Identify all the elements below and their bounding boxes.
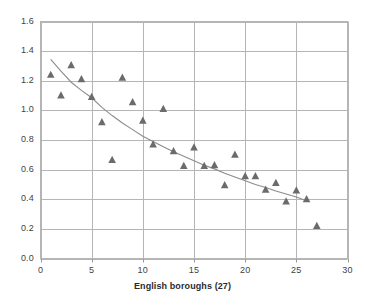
data-point-marker <box>190 143 198 150</box>
x-axis-tick-label: 15 <box>179 265 209 275</box>
data-point-marker <box>282 197 290 204</box>
x-axis-tick-label: 5 <box>77 265 107 275</box>
data-point-marker <box>231 151 239 158</box>
data-point-marker <box>129 98 137 105</box>
data-point-marker <box>57 91 65 98</box>
y-axis-tick-label: 0.6 <box>2 164 34 174</box>
data-point-marker <box>119 74 127 81</box>
y-axis-tick-label: 1.6 <box>2 16 34 26</box>
data-point-marker <box>139 117 147 124</box>
data-point-marker <box>241 172 249 179</box>
trendline <box>51 59 307 200</box>
y-axis-tick-label: 0.4 <box>2 193 34 203</box>
x-axis-tick-label: 30 <box>333 265 363 275</box>
y-axis-tick-label: 0.8 <box>2 134 34 144</box>
data-point-marker <box>272 179 280 186</box>
y-axis-tick-label: 1.4 <box>2 45 34 55</box>
data-point-marker <box>303 195 311 202</box>
data-point-marker <box>160 105 168 112</box>
x-axis-tick-label: 20 <box>230 265 260 275</box>
y-axis-tick-label: 0.0 <box>2 253 34 263</box>
data-point-marker <box>149 140 157 147</box>
scatter-chart: 0.00.20.40.60.81.01.21.41.6 051015202530… <box>0 0 365 308</box>
y-axis-tick-label: 0.2 <box>2 223 34 233</box>
data-point-marker <box>293 186 301 193</box>
x-axis-tick-label: 10 <box>128 265 158 275</box>
data-point-marker <box>67 61 75 68</box>
data-point-marker <box>98 118 106 125</box>
data-point-marker <box>252 172 260 179</box>
data-point-markers <box>47 61 321 229</box>
data-point-marker <box>313 222 321 229</box>
plot-canvas <box>0 0 365 308</box>
data-point-marker <box>180 162 188 169</box>
x-axis-tick-label: 0 <box>26 265 56 275</box>
x-axis-title: English boroughs (27) <box>0 281 365 291</box>
y-axis-tick-label: 1.0 <box>2 104 34 114</box>
data-point-marker <box>108 156 116 163</box>
data-point-marker <box>47 71 55 78</box>
y-axis-tick-label: 1.2 <box>2 75 34 85</box>
gridlines <box>41 22 349 263</box>
data-point-marker <box>211 161 219 168</box>
data-point-marker <box>221 181 229 188</box>
data-point-marker <box>200 162 208 169</box>
data-point-marker <box>78 75 86 82</box>
x-axis-tick-label: 25 <box>281 265 311 275</box>
